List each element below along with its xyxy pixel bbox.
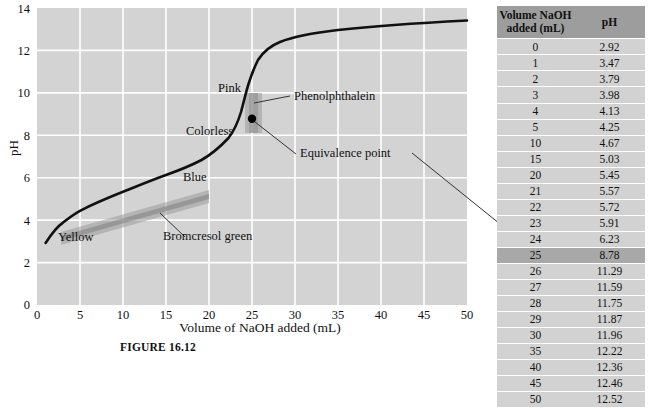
table-row: 2711.59	[497, 279, 645, 295]
table-row: 13.47	[497, 55, 645, 71]
table-row: 2911.87	[497, 311, 645, 327]
annotation-bromcresol-green: Bromcresol green	[163, 229, 252, 244]
cell-ph: 11.87	[574, 311, 645, 327]
cell-ph: 12.52	[574, 391, 645, 407]
cell-ph: 4.13	[574, 103, 645, 119]
cell-ph: 11.59	[574, 279, 645, 295]
cell-volume: 23	[497, 215, 574, 231]
cell-ph: 5.57	[574, 183, 645, 199]
y-axis-title: pH	[6, 128, 22, 168]
cell-volume: 4	[497, 103, 574, 119]
table-header-volume-line2: added (mL)	[507, 22, 565, 34]
cell-volume: 2	[497, 71, 574, 87]
xtick-45: 45	[412, 308, 436, 323]
table-row: 54.25	[497, 119, 645, 135]
table-row: 235.91	[497, 215, 645, 231]
cell-volume: 27	[497, 279, 574, 295]
annotation-equivalence-point: Equivalence point	[300, 146, 391, 161]
table-row: 4512.46	[497, 375, 645, 391]
cell-volume: 3	[497, 87, 574, 103]
xtick-0: 0	[25, 308, 49, 323]
cell-ph: 11.29	[574, 263, 645, 279]
cell-volume: 25	[497, 247, 574, 263]
cell-volume: 45	[497, 375, 574, 391]
annotation-yellow: Yellow	[58, 230, 94, 245]
cell-volume: 30	[497, 327, 574, 343]
cell-volume: 50	[497, 391, 574, 407]
table-row: 246.23	[497, 231, 645, 247]
cell-volume: 29	[497, 311, 574, 327]
cell-volume: 22	[497, 199, 574, 215]
cell-ph: 3.98	[574, 87, 645, 103]
cell-volume: 28	[497, 295, 574, 311]
table-row: 33.98	[497, 87, 645, 103]
titration-chart: 14 12 10 8 6 4 2 0 0 5 10 15 20 25 30 35…	[0, 0, 470, 355]
table-row: 104.67	[497, 135, 645, 151]
indicator-band-phenolphthalein	[245, 93, 262, 133]
cell-volume: 5	[497, 119, 574, 135]
table-row: 225.72	[497, 199, 645, 215]
table-row: 2611.29	[497, 263, 645, 279]
x-axis-title: Volume of NaOH added (mL)	[120, 320, 400, 336]
cell-ph: 5.03	[574, 151, 645, 167]
table-row: 205.45	[497, 167, 645, 183]
equivalence-point-marker	[248, 115, 256, 123]
ytick-4: 4	[6, 214, 30, 229]
cell-ph: 6.23	[574, 231, 645, 247]
plot-svg	[0, 0, 470, 355]
xtick-5: 5	[68, 308, 92, 323]
table-row: 3011.96	[497, 327, 645, 343]
table-row: 258.78	[497, 247, 645, 263]
cell-ph: 3.47	[574, 55, 645, 71]
cell-ph: 5.91	[574, 215, 645, 231]
cell-ph: 12.36	[574, 359, 645, 375]
ytick-2: 2	[6, 256, 30, 271]
figure-caption: FIGURE 16.12	[120, 341, 420, 355]
cell-ph: 11.75	[574, 295, 645, 311]
cell-ph: 3.79	[574, 71, 645, 87]
table-row: 215.57	[497, 183, 645, 199]
cell-volume: 15	[497, 151, 574, 167]
ytick-10: 10	[6, 86, 30, 101]
cell-ph: 8.78	[574, 247, 645, 263]
annotation-phenolphthalein: Phenolphthalein	[294, 89, 375, 104]
annotation-blue: Blue	[183, 170, 207, 185]
annotation-pink: Pink	[218, 81, 241, 96]
cell-ph: 5.45	[574, 167, 645, 183]
cell-ph: 12.22	[574, 343, 645, 359]
table-header-row: Volume NaOH added (mL) pH	[497, 6, 645, 39]
table-row: 155.03	[497, 151, 645, 167]
table-row: 3512.22	[497, 343, 645, 359]
table-header-ph: pH	[574, 6, 645, 39]
cell-volume: 40	[497, 359, 574, 375]
ytick-14: 14	[6, 2, 30, 17]
table-row: 02.92	[497, 39, 645, 55]
cell-volume: 21	[497, 183, 574, 199]
cell-volume: 24	[497, 231, 574, 247]
cell-volume: 20	[497, 167, 574, 183]
cell-ph: 4.67	[574, 135, 645, 151]
cell-volume: 26	[497, 263, 574, 279]
table-header-volume-line1: Volume NaOH	[499, 9, 571, 21]
cell-volume: 0	[497, 39, 574, 55]
annotation-colorless: Colorless	[186, 124, 233, 139]
cell-ph: 5.72	[574, 199, 645, 215]
titration-data-table: Volume NaOH added (mL) pH 02.9213.4723.7…	[497, 6, 645, 408]
cell-volume: 35	[497, 343, 574, 359]
table-body: 02.9213.4723.7933.9844.1354.25104.67155.…	[497, 39, 645, 407]
ytick-12: 12	[6, 44, 30, 59]
ytick-6: 6	[6, 171, 30, 186]
cell-ph: 4.25	[574, 119, 645, 135]
xtick-50: 50	[455, 308, 479, 323]
table-row: 4012.36	[497, 359, 645, 375]
table-row: 23.79	[497, 71, 645, 87]
cell-volume: 10	[497, 135, 574, 151]
table-row: 5012.52	[497, 391, 645, 407]
table-header-volume: Volume NaOH added (mL)	[497, 6, 574, 39]
cell-ph: 2.92	[574, 39, 645, 55]
table-row: 2811.75	[497, 295, 645, 311]
table-row: 44.13	[497, 103, 645, 119]
cell-ph: 11.96	[574, 327, 645, 343]
cell-ph: 12.46	[574, 375, 645, 391]
